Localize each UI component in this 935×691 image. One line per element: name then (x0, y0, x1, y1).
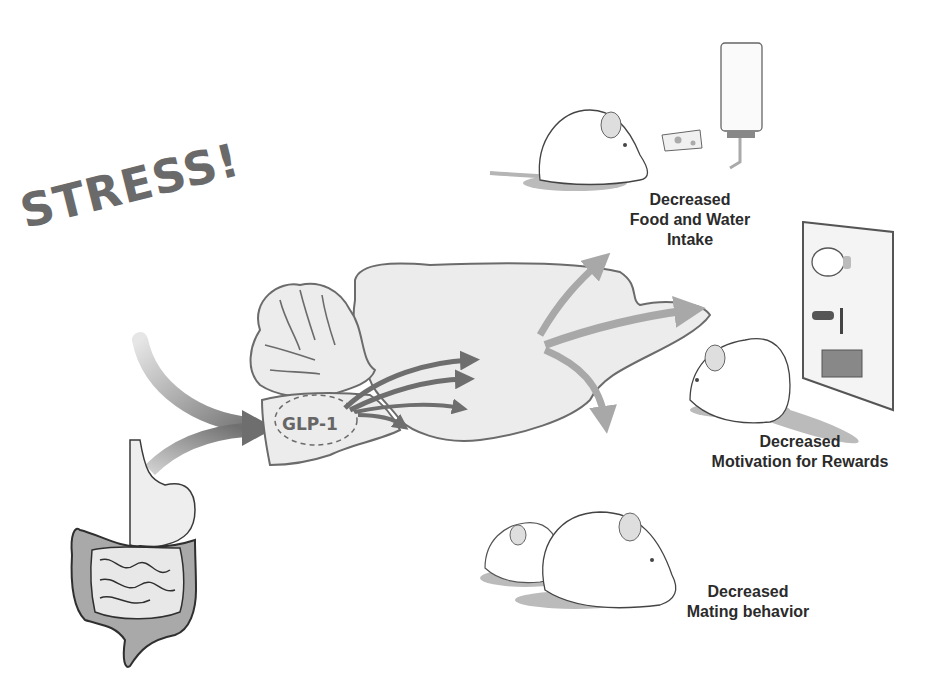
outcome-motivation: Decreased Motivation for Rewards (690, 432, 910, 472)
outcome-mating-line1: Decreased (668, 582, 828, 602)
glp1-label: GLP-1 (282, 414, 338, 434)
outcome-motivation-line1: Decreased (690, 432, 910, 452)
outcome-food-water: Decreased Food and Water Intake (600, 190, 780, 250)
mice-mating-illustration (480, 512, 676, 609)
outcome-food-water-line2: Food and Water (600, 210, 780, 230)
mouse-reward-illustration (690, 222, 893, 450)
lever-icon (812, 311, 834, 320)
lightbulb-icon (812, 248, 844, 276)
mouse-eating-illustration (490, 43, 762, 191)
brain-illustration (251, 262, 710, 465)
stress-arrow (140, 340, 250, 425)
outcome-food-water-line1: Decreased (600, 190, 780, 210)
outcome-mating-line2: Mating behavior (668, 602, 828, 622)
gut-illustration (72, 440, 196, 667)
outcome-motivation-line2: Motivation for Rewards (690, 452, 910, 472)
food-tray-icon (822, 350, 862, 377)
outcome-mating: Decreased Mating behavior (668, 582, 828, 622)
outcome-food-water-line3: Intake (600, 230, 780, 250)
